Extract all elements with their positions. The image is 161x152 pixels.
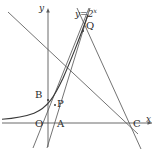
point-label-O: O [35,119,43,129]
point-label-A: A [57,119,64,129]
point-label-B: B [35,90,42,100]
point-marker-Q [82,30,84,32]
point-marker-B [47,99,49,101]
point-label-P: P [57,99,64,109]
figure-canvas [0,0,161,152]
point-marker-P [54,104,56,106]
y-axis-label: y [39,4,44,13]
point-label-C: C [133,119,141,129]
point-label-Q: Q [86,21,94,31]
curve-equation-exponent: x [93,7,97,15]
geometry-figure: y x y=2x O A B P Q C [0,0,161,152]
exponential-curve [2,15,88,120]
curve-equation-base: y=2 [75,9,93,19]
secant-line-PQ [47,8,90,148]
curve-equation-label: y=2x [75,8,97,19]
x-axis-label: x [146,115,151,124]
y-axis-arrow-icon [46,8,50,13]
